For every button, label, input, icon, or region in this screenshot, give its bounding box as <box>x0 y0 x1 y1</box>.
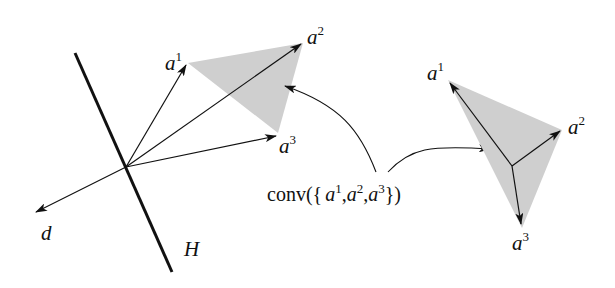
label-d: d <box>41 221 52 245</box>
pointer-arrow-left <box>285 86 376 172</box>
convex-hull-figure: a1 a2 a3 d H conv({a1,a2,a3}) a1 a2 a3 <box>0 0 615 288</box>
direction-d <box>36 167 126 212</box>
hyperplane-H <box>75 53 172 272</box>
vector-a1 <box>126 65 186 167</box>
label-a3: a3 <box>279 132 296 158</box>
left-diagram: a1 a2 a3 d H <box>36 23 324 272</box>
label-a2: a2 <box>307 23 324 49</box>
label-a2-right: a2 <box>568 113 585 139</box>
label-a3-right: a3 <box>512 229 529 255</box>
label-H: H <box>183 237 201 261</box>
label-a1: a1 <box>165 49 182 75</box>
caption-conv: conv({a1,a2,a3}) <box>267 181 401 206</box>
label-a1-right: a1 <box>427 59 444 85</box>
convex-hull-triangle <box>188 43 303 133</box>
convex-hull-triangle-right <box>448 80 562 228</box>
diagram-canvas: a1 a2 a3 d H conv({a1,a2,a3}) a1 a2 a3 <box>0 0 615 288</box>
pointer-arrow-right <box>388 148 490 172</box>
right-diagram: a1 a2 a3 <box>427 59 585 255</box>
